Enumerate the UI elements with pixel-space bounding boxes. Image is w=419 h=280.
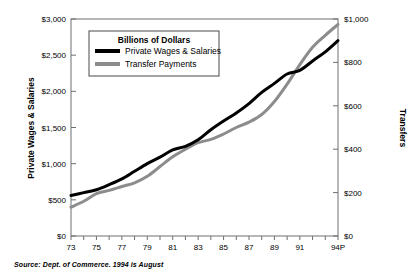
left-tick-label: $1,500 [42, 124, 67, 133]
left-axis-title: Private Wages & Salaries [26, 77, 36, 179]
x-tick-label: 83 [194, 243, 203, 252]
right-tick-label: $400 [344, 145, 362, 154]
x-tick-label: 94P [331, 243, 345, 252]
right-axis-ticks [333, 19, 338, 236]
right-tick-label: $1,000 [344, 15, 369, 24]
left-tick-label: $1,000 [42, 160, 67, 169]
left-axis-ticks [71, 19, 76, 236]
x-axis-ticks [71, 236, 338, 240]
x-tick-label: 91 [295, 243, 304, 252]
right-tick-label: $0 [344, 232, 353, 241]
dual-axis-line-chart: $0$500$1,000$1,500$2,000$2,500$3,000 $0$… [0, 0, 419, 280]
chart-legend: Billions of Dollars Private Wages & Sala… [89, 31, 221, 76]
legend-label-2: Transfer Payments [125, 59, 197, 69]
left-axis-tick-labels: $0$500$1,000$1,500$2,000$2,500$3,000 [42, 15, 67, 241]
right-tick-label: $800 [344, 58, 362, 67]
left-tick-label: $2,000 [42, 87, 67, 96]
left-tick-label: $500 [48, 196, 66, 205]
x-tick-label: 79 [143, 243, 152, 252]
x-tick-label: 73 [67, 243, 76, 252]
source-note: Source: Dept. of Commerce. 1994 is Augus… [14, 261, 163, 268]
x-tick-label: 87 [245, 243, 254, 252]
x-tick-label: 75 [92, 243, 101, 252]
legend-title: Billions of Dollars [118, 35, 191, 45]
legend-label-1: Private Wages & Salaries [125, 46, 221, 56]
x-axis-tick-labels: 7375777981838587899194P [67, 243, 346, 252]
x-tick-label: 77 [117, 243, 126, 252]
right-axis-tick-labels: $0$200$400$600$800$1,000 [344, 15, 369, 241]
left-tick-label: $3,000 [42, 15, 67, 24]
left-tick-label: $2,500 [42, 51, 67, 60]
x-tick-label: 89 [270, 243, 279, 252]
chart-figure: $0$500$1,000$1,500$2,000$2,500$3,000 $0$… [0, 0, 419, 280]
x-tick-label: 81 [168, 243, 177, 252]
right-axis-title: Transfers [398, 109, 408, 148]
x-tick-label: 85 [219, 243, 228, 252]
left-tick-label: $0 [57, 232, 66, 241]
right-tick-label: $600 [344, 102, 362, 111]
right-tick-label: $200 [344, 189, 362, 198]
